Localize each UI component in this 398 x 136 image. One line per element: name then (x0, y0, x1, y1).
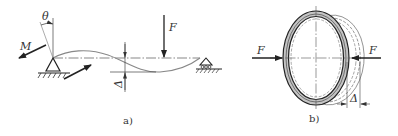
figure-b: F F Δ b) (252, 6, 381, 124)
caption-b: b) (309, 113, 319, 124)
force-left: F (252, 44, 282, 58)
force-left-label: F (256, 44, 265, 57)
applied-force: F (164, 15, 177, 57)
pinned-support-left (38, 58, 70, 78)
force-right-label: F (368, 44, 377, 57)
roller-support-right (196, 58, 222, 73)
applied-moment: M (19, 40, 46, 58)
figure-a: θ M F Δ (19, 10, 222, 126)
delta-label: Δ (112, 80, 125, 89)
caption-a: a) (123, 115, 133, 126)
theta-label: θ (42, 10, 49, 23)
deflection-dimension: Δ (110, 42, 156, 92)
deflected-beam-curve (53, 51, 200, 72)
moment-label: M (19, 40, 32, 53)
delta-label-b: Δ (349, 92, 358, 105)
force-right: F (352, 44, 381, 58)
rotation-direction-arrow (64, 65, 91, 79)
engineering-figure: θ M F Δ (0, 0, 398, 136)
rotation-angle: θ (40, 10, 53, 58)
force-label: F (168, 21, 177, 34)
